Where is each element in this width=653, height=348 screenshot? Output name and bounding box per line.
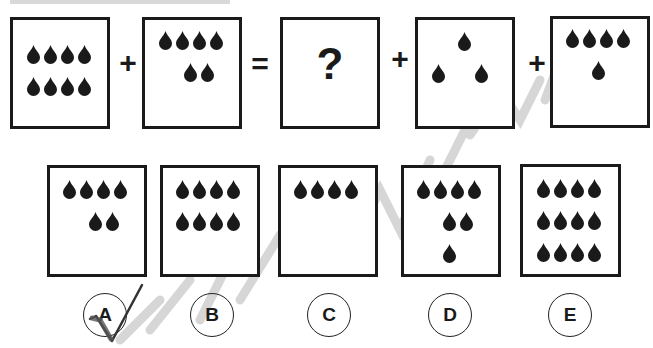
question-mark: ? — [283, 42, 377, 86]
drop-icon — [226, 212, 241, 231]
drop-icon — [431, 64, 446, 83]
drop-icon — [175, 180, 190, 199]
drop-icon — [327, 180, 342, 199]
equation-panel-term1 — [10, 17, 110, 129]
drop-icon — [599, 29, 614, 48]
drop-icon — [442, 244, 457, 263]
drop-icon — [175, 31, 190, 50]
option-panel-c[interactable] — [278, 165, 378, 277]
drop-icon — [570, 243, 585, 262]
drop-icon — [200, 63, 215, 82]
option-panel-a[interactable] — [47, 165, 147, 277]
drop-icon — [192, 212, 207, 231]
drop-icon — [209, 180, 224, 199]
drop-icon — [553, 243, 568, 262]
drop-icon — [26, 45, 41, 64]
option-panel-b[interactable] — [160, 165, 260, 277]
checkmark-icon — [86, 283, 146, 345]
drop-icon — [62, 180, 77, 199]
drop-icon — [192, 180, 207, 199]
drop-icon — [344, 180, 359, 199]
option-d-button[interactable]: D — [428, 293, 472, 337]
drop-icon — [77, 77, 92, 96]
header-bar — [10, 0, 230, 4]
equation-panel-term3 — [415, 17, 515, 129]
drop-icon — [175, 212, 190, 231]
drop-icon — [105, 212, 120, 231]
drop-icon — [442, 212, 457, 231]
drop-icon — [43, 45, 58, 64]
plus-operator: + — [388, 44, 412, 74]
equals-operator: = — [248, 49, 272, 79]
drop-icon — [467, 180, 482, 199]
drop-icon — [183, 63, 198, 82]
drop-icon — [43, 77, 58, 96]
option-e-button[interactable]: E — [548, 293, 592, 337]
drop-icon — [209, 212, 224, 231]
drop-icon — [310, 180, 325, 199]
drop-icon — [416, 180, 431, 199]
plus-operator: + — [525, 48, 549, 78]
drop-icon — [536, 179, 551, 198]
drop-icon — [457, 32, 472, 51]
drop-icon — [226, 180, 241, 199]
drop-icon — [536, 243, 551, 262]
drop-icon — [158, 31, 173, 50]
equation-panel-term4 — [550, 16, 650, 128]
drop-icon — [587, 211, 602, 230]
drop-icon — [474, 64, 489, 83]
option-b-button[interactable]: B — [190, 293, 234, 337]
drop-icon — [459, 212, 474, 231]
drop-icon — [570, 179, 585, 198]
equation-panel-result: ? — [280, 17, 380, 129]
drop-icon — [209, 31, 224, 50]
drop-icon — [616, 29, 631, 48]
drop-icon — [88, 212, 103, 231]
drop-icon — [96, 180, 111, 199]
drop-icon — [565, 29, 580, 48]
drop-icon — [60, 45, 75, 64]
plus-operator: + — [116, 48, 140, 78]
drop-icon — [60, 77, 75, 96]
drop-icon — [192, 31, 207, 50]
drop-icon — [450, 180, 465, 199]
drop-icon — [587, 243, 602, 262]
option-panel-d[interactable] — [401, 165, 501, 277]
drop-icon — [570, 211, 585, 230]
option-c-button[interactable]: C — [307, 293, 351, 337]
drop-icon — [587, 179, 602, 198]
equation-panel-term2 — [142, 17, 242, 129]
drop-icon — [582, 29, 597, 48]
option-panel-e[interactable] — [520, 164, 621, 277]
drop-icon — [536, 211, 551, 230]
drop-icon — [553, 179, 568, 198]
drop-icon — [591, 61, 606, 80]
drop-icon — [77, 45, 92, 64]
drop-icon — [113, 180, 128, 199]
drop-icon — [26, 77, 41, 96]
drop-icon — [79, 180, 94, 199]
drop-icon — [553, 211, 568, 230]
drop-icon — [433, 180, 448, 199]
drop-icon — [293, 180, 308, 199]
